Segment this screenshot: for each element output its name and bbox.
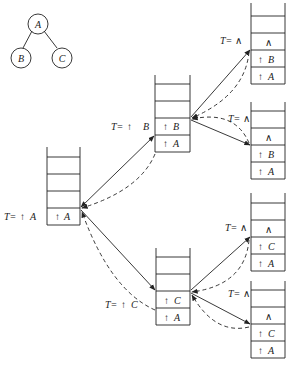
s3-cell-0-ptr: ↑ <box>258 71 263 82</box>
stack-trace-diagram: A B C ↑ A T= ↑ A ↑ B ↑ <box>0 0 297 366</box>
s7-cell-0-node: A <box>173 312 181 323</box>
arrow-s3-s2-return <box>192 52 249 118</box>
s2-cell-1-ptr: ↑ <box>163 121 168 132</box>
stack-s2: ↑ B ↑ A T= ↑ B <box>111 75 190 152</box>
stack-s1: ↑ A T= ↑ A <box>4 147 80 225</box>
s1-cell-0-node: A <box>63 211 71 222</box>
s6-cell-1-ptr: ↑ <box>258 328 263 339</box>
s5-cell-1-ptr: ↑ <box>258 241 263 252</box>
stack-s7: ↑ C ↑ A T= ↑ C <box>105 248 190 325</box>
arrows <box>81 50 250 328</box>
s3-cell-2-null: ∧ <box>265 37 272 48</box>
s4-cell-0-node: A <box>267 166 275 177</box>
s3-t-null: ∧ <box>235 35 242 46</box>
stack-s3: ∧ ↑ B ↑ A T= ∧ <box>220 3 285 84</box>
s5-cell-2-null: ∧ <box>265 224 272 235</box>
s4-cell-1-ptr: ↑ <box>258 149 263 160</box>
s1-t-prefix: T= <box>4 211 16 222</box>
s5-cell-0-ptr: ↑ <box>258 258 263 269</box>
s3-cell-1-ptr: ↑ <box>258 54 263 65</box>
s6-cell-0-node: A <box>267 345 275 356</box>
arrow-s2-s1-return <box>82 154 155 208</box>
s4-cell-2-null: ∧ <box>265 132 272 143</box>
s4-cell-1-node: B <box>268 149 274 160</box>
tree-node-c: C <box>52 48 72 68</box>
node-a-label: A <box>34 19 42 30</box>
stack-s6: ∧ ↑ C ↑ A T= ∧ <box>228 281 285 358</box>
arrow-s2-s4-solid <box>191 120 250 145</box>
s1-cell-0-ptr: ↑ <box>55 211 60 222</box>
node-b-label: B <box>18 53 24 64</box>
s7-t-prefix: T= <box>105 299 117 310</box>
arrow-s5-s7-return <box>192 240 249 292</box>
stack-s5: ∧ ↑ C ↑ A T= ∧ <box>225 193 285 271</box>
arrow-s1-s7-solid <box>81 210 155 290</box>
s2-t-node: B <box>143 121 149 132</box>
s3-t-prefix: T= <box>220 35 232 46</box>
tree-node-b: B <box>11 48 31 68</box>
arrow-s7-s5-solid <box>191 237 250 290</box>
arrow-s1-s2-solid <box>81 136 154 207</box>
s7-t-ptr: ↑ <box>121 299 126 310</box>
s4-t-null: ∧ <box>243 113 250 124</box>
tree-node-a: A <box>28 14 48 34</box>
s7-cell-1-ptr: ↑ <box>164 295 169 306</box>
s2-t-ptr: ↑ <box>127 121 132 132</box>
s4-cell-0-ptr: ↑ <box>258 166 263 177</box>
s7-t-node: C <box>131 299 138 310</box>
s1-t-ptr: ↑ <box>20 211 25 222</box>
s2-cell-0-ptr: ↑ <box>163 138 168 149</box>
arrow-s7-s6-solid <box>191 293 250 324</box>
s3-cell-0-node: A <box>267 71 275 82</box>
s5-t-null: ∧ <box>240 222 247 233</box>
s1-t-node: A <box>29 211 37 222</box>
s7-cell-0-ptr: ↑ <box>164 312 169 323</box>
s3-cell-1-node: B <box>268 54 274 65</box>
arrow-s7-s1-return <box>82 212 155 310</box>
s5-t-prefix: T= <box>225 222 237 233</box>
node-c-label: C <box>59 53 66 64</box>
binary-tree: A B C <box>11 14 72 68</box>
s6-cell-0-ptr: ↑ <box>258 345 263 356</box>
s2-cell-1-node: B <box>173 121 179 132</box>
s4-t-prefix: T= <box>228 113 240 124</box>
s5-cell-1-node: C <box>268 241 275 252</box>
s6-t-prefix: T= <box>228 288 240 299</box>
s2-cell-0-node: A <box>172 138 180 149</box>
arrow-s4-s2-return <box>192 117 249 143</box>
s6-cell-2-null: ∧ <box>265 311 272 322</box>
arrow-s2-s3-solid <box>191 50 250 117</box>
s7-cell-1-node: C <box>174 295 181 306</box>
s6-cell-1-node: C <box>268 328 275 339</box>
arrow-s6-s7-return <box>192 295 249 328</box>
s2-t-prefix: T= <box>111 121 123 132</box>
s6-t-null: ∧ <box>243 288 250 299</box>
stack-s4: ∧ ↑ B ↑ A T= ∧ <box>228 102 285 179</box>
s5-cell-0-node: A <box>267 258 275 269</box>
